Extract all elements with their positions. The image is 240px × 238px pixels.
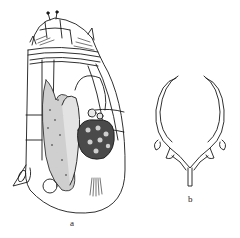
panel-label-a: a	[70, 218, 74, 228]
panel-b-drawing	[154, 76, 225, 186]
panel-label-b: b	[188, 194, 193, 204]
rotifer-illustration	[0, 0, 240, 238]
panel-a-drawing	[13, 11, 125, 213]
